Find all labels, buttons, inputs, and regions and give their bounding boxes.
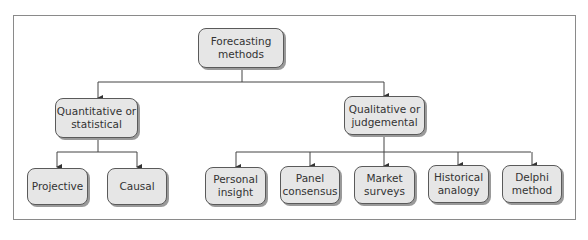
node-label: Projective: [32, 180, 84, 193]
node-label: Qualitative or judgemental: [349, 103, 421, 129]
node-label: Market surveys: [364, 172, 405, 198]
node-quantitative: Quantitative or statistical: [55, 98, 138, 138]
node-label: Historical analogy: [434, 171, 483, 197]
node-causal: Causal: [107, 168, 167, 205]
node-forecasting-methods: Forecasting methods: [198, 28, 284, 68]
node-label: Forecasting methods: [211, 35, 272, 61]
node-personal-insight: Personal insight: [205, 167, 266, 205]
node-label: Delphi method: [512, 171, 553, 197]
node-label: Panel consensus: [282, 172, 337, 198]
node-delphi-method: Delphi method: [502, 165, 562, 203]
node-historical-analogy: Historical analogy: [428, 165, 489, 203]
node-qualitative: Qualitative or judgemental: [344, 96, 425, 135]
node-projective: Projective: [27, 168, 88, 205]
node-label: Quantitative or statistical: [57, 105, 136, 131]
node-label: Causal: [119, 180, 154, 193]
node-label: Personal insight: [213, 173, 258, 199]
node-market-surveys: Market surveys: [354, 166, 415, 204]
node-panel-consensus: Panel consensus: [280, 166, 340, 204]
